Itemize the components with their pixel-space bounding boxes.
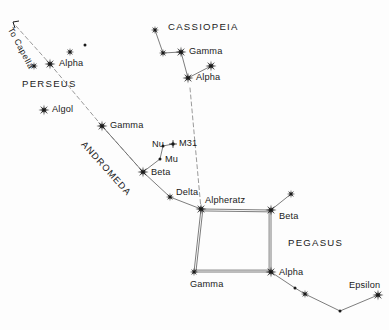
star-perseus-algol [38, 104, 49, 115]
star-cassiopeia-gamma-label: Gamma [189, 47, 222, 56]
star-pegasus-unnamed-7 [301, 290, 310, 299]
star-andromeda-gamma [96, 120, 107, 131]
star-perseus-unnamed-2-glyph [66, 48, 75, 57]
pegasus-line-4 [340, 295, 378, 311]
great-square-side-0-inner [201, 211, 271, 212]
star-pegasus-alpha [265, 266, 276, 277]
star-andromeda-beta-label: Beta [151, 168, 171, 177]
andromeda-line-2 [170, 197, 201, 209]
star-cassiopeia-alpha [182, 72, 193, 83]
star-cassiopeia-unnamed-0 [151, 26, 160, 35]
star-andromeda-mu [159, 158, 162, 161]
star-pegasus-beta-glyph [265, 204, 276, 215]
star-pegasus-unnamed-6 [294, 287, 297, 290]
cassiopeia-line-2 [181, 52, 188, 78]
pegasus-line-0 [271, 194, 291, 210]
star-pegasus-gamma [190, 268, 199, 277]
star-perseus-unnamed-2 [66, 48, 75, 57]
star-pegasus-beta [265, 204, 276, 215]
star-chart: To CapellaAlphaAlgolPERSEUSGammaAlphaCAS… [0, 0, 389, 330]
star-pegasus-unnamed-5-glyph [287, 190, 296, 199]
star-andromeda-delta [166, 193, 175, 202]
star-perseus-algol-glyph [38, 104, 49, 115]
star-pegasus-alpha-label: Alpha [279, 268, 303, 277]
star-pegasus-epsilon-glyph [372, 289, 383, 300]
star-andromeda-delta-label: Delta [176, 188, 198, 197]
star-pegasus-alpha-glyph [265, 266, 276, 277]
constellation-label-pegasus: PEGASUS [288, 238, 343, 248]
star-perseus-algol-label: Algol [52, 105, 73, 114]
star-pegasus-gamma-glyph [190, 268, 199, 277]
star-pegasus-epsilon [372, 289, 383, 300]
star-perseus-alpha-glyph [44, 58, 55, 69]
cassiopeia-line-0 [155, 30, 163, 53]
constellation-label-cassiopeia: CASSIOPEIA [168, 22, 239, 32]
star-cassiopeia-alpha-label: Alpha [196, 73, 220, 82]
star-pegasus-beta-label: Beta [279, 212, 299, 221]
star-cassiopeia-unnamed-0-glyph [151, 26, 160, 35]
star-andromeda-m31-label: M31 [179, 139, 197, 148]
pegasus-line-3 [305, 294, 340, 311]
star-perseus-alpha [44, 58, 55, 69]
pegasus-line-2 [295, 288, 305, 294]
star-andromeda-gamma-glyph [96, 120, 107, 131]
pointer-lines-layer [13, 21, 201, 209]
star-cassiopeia-unnamed-1-glyph [159, 49, 168, 58]
star-cassiopeia-alpha-glyph [182, 72, 193, 83]
star-pegasus-unnamed-7-glyph [301, 290, 310, 299]
to-capella-line-seg-1 [50, 64, 102, 126]
great-square-side-3 [194, 209, 201, 272]
star-andromeda-delta-glyph [166, 193, 175, 202]
star-andromeda-gamma-label: Gamma [110, 121, 143, 130]
star-perseus-alpha-label: Alpha [59, 59, 83, 68]
star-andromeda-mu-label: Mu [165, 155, 178, 164]
star-pegasus-alpheratz-label: Alpheratz [205, 196, 245, 205]
great-square-side-3-inner [196, 209, 203, 272]
star-cassiopeia-gamma [175, 46, 186, 57]
star-andromeda-nu-label: Nu [152, 140, 164, 149]
star-pegasus-gamma-label: Gamma [190, 280, 223, 289]
star-perseus-unnamed-3 [84, 44, 87, 47]
star-pegasus-unnamed-5 [287, 190, 296, 199]
constellation-label-perseus: PERSEUS [22, 79, 77, 89]
star-cassiopeia-unnamed-4 [205, 60, 216, 71]
star-pegasus-epsilon-label: Epsilon [349, 281, 380, 290]
great-square-side-0 [201, 209, 271, 210]
star-cassiopeia-unnamed-1 [159, 49, 168, 58]
star-pegasus-unnamed-8 [339, 310, 342, 313]
star-andromeda-beta [137, 166, 148, 177]
star-andromeda-m31 [170, 141, 177, 148]
star-cassiopeia-unnamed-4-glyph [205, 60, 216, 71]
star-cassiopeia-gamma-glyph [175, 46, 186, 57]
star-andromeda-beta-glyph [137, 166, 148, 177]
great-square-layer [194, 209, 271, 272]
